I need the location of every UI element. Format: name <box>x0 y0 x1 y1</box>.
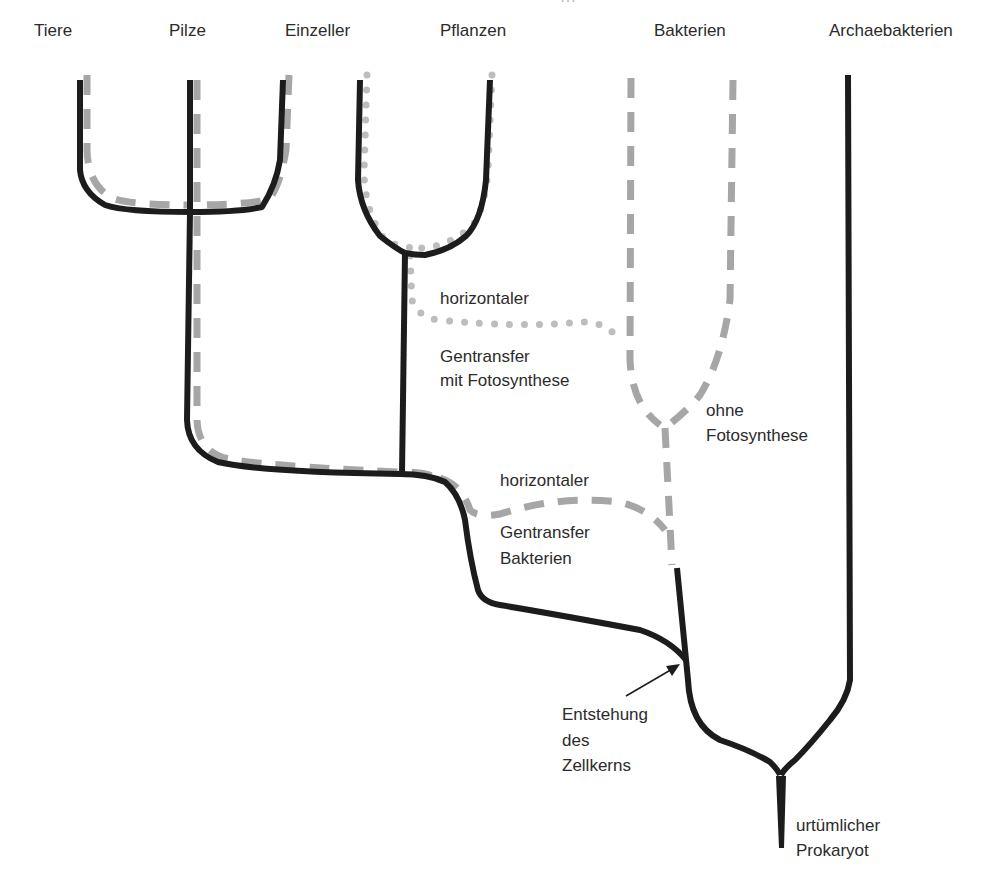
root-stem <box>776 776 786 848</box>
label-pflanzen: Pflanzen <box>440 20 506 41</box>
hgt-bact-label-2: Gentransfer <box>500 522 590 543</box>
phylogenetic-tree <box>0 0 996 887</box>
label-tiere: Tiere <box>34 20 72 41</box>
pflanzen-stem <box>402 253 405 474</box>
root-label-2: Prokaryot <box>796 840 869 861</box>
hgt-bact-label-3: Bakterien <box>500 548 572 569</box>
root-label-1: urtümlicher <box>796 815 880 836</box>
tiere-dashed-line <box>87 75 190 205</box>
hgt-photo-label-3: mit Fotosynthese <box>440 370 569 391</box>
bakterien-right-dashed <box>665 80 733 428</box>
bakterien-left-dashed <box>630 78 660 425</box>
arrowhead-icon <box>666 664 680 676</box>
hgt-photo-label-2: Gentransfer <box>440 346 530 367</box>
nucleus-label-2: des <box>562 730 589 751</box>
ohne-label-2: Fotosynthese <box>706 425 808 446</box>
label-bakterien: Bakterien <box>654 20 726 41</box>
einzeller-lineage <box>190 80 283 212</box>
eukaryote-stem <box>677 568 780 775</box>
label-einzeller: Einzeller <box>285 20 350 41</box>
pflanzen-right-dotted <box>420 75 492 248</box>
ohne-label-1: ohne <box>706 400 744 421</box>
bakterien-stem-dashed <box>665 428 672 565</box>
nucleus-label-1: Entstehung <box>562 704 648 725</box>
nucleus-arrow <box>626 664 680 696</box>
bacterial-gene-lineages <box>87 75 733 565</box>
pilze-trunk <box>187 80 686 660</box>
pflanzen-right-lineage <box>405 80 490 255</box>
tiere-lineage <box>80 80 190 212</box>
hgt-photo-label-1: horizontaler <box>440 288 529 309</box>
hgt-bact-label-1: horizontaler <box>500 470 589 491</box>
label-archaebakterien: Archaebakterien <box>829 20 953 41</box>
label-pilze: Pilze <box>169 20 206 41</box>
nucleus-label-3: Zellkerns <box>562 755 631 776</box>
